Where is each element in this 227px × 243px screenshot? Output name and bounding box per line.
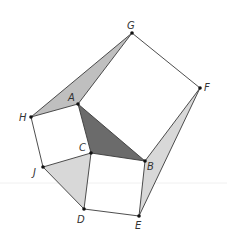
point-A — [76, 102, 80, 106]
geometry-diagram: ABCDEFGHJ — [0, 0, 227, 243]
label-G: G — [127, 20, 135, 31]
label-D: D — [77, 214, 85, 225]
label-E: E — [135, 220, 142, 231]
point-F — [198, 86, 202, 90]
segment-FE — [139, 88, 200, 216]
point-G — [130, 31, 134, 35]
shaded-regions — [31, 33, 200, 216]
point-H — [29, 115, 33, 119]
point-J — [41, 165, 45, 169]
label-F: F — [204, 82, 210, 93]
label-B: B — [147, 161, 154, 172]
segment-GA — [78, 33, 132, 104]
point-E — [137, 214, 141, 218]
label-H: H — [19, 112, 27, 123]
triangle-JCD — [43, 153, 91, 209]
label-J: J — [31, 167, 36, 178]
point-C — [89, 151, 93, 155]
label-C: C — [79, 142, 86, 153]
segment-ED — [84, 209, 139, 216]
segment-BF — [145, 88, 200, 161]
segment-JH — [31, 117, 43, 167]
segment-FG — [132, 33, 200, 88]
label-A: A — [67, 92, 75, 103]
segment-HG — [31, 33, 132, 117]
point-D — [82, 207, 86, 211]
